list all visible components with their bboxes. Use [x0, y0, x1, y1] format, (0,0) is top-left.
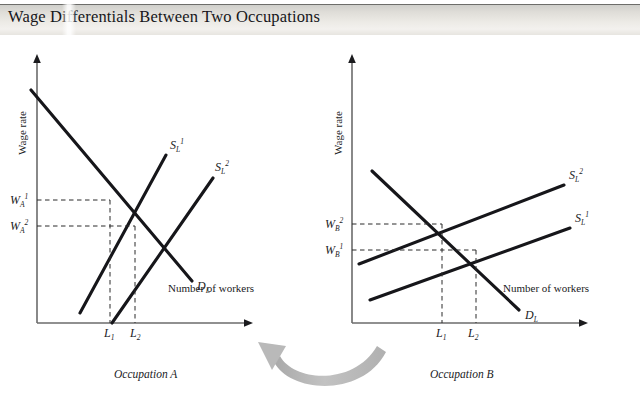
- price-label-w-a-1: WA1: [10, 193, 28, 209]
- price-label-w-b-1: WB1: [325, 243, 343, 259]
- curve-label-demand-b: DL: [525, 309, 538, 324]
- guide-lines-b: [352, 224, 476, 323]
- chart-panel-occupation-b: Wage rate Number of workers WB2 WB1 L1 L…: [320, 45, 640, 345]
- quantity-label-l-1-a: L1: [104, 327, 114, 342]
- curve-supply-2-a: [112, 178, 213, 323]
- curve-label-supply-2-b: SL2: [569, 168, 583, 184]
- price-label-w-b-2: WB2: [325, 217, 343, 233]
- x-axis-label-b: Number of workers: [503, 283, 589, 294]
- quantity-label-l-1-b: L1: [436, 327, 446, 342]
- price-label-w-a-2: WA2: [10, 219, 28, 235]
- curve-demand-b: [372, 171, 519, 310]
- figure-title: Wage Differentials Between Two Occupatio…: [8, 7, 320, 27]
- chart-panel-occupation-a: Wage rate Number of workers WA1 WA2 L1 L…: [0, 45, 320, 345]
- x-axis-label-a: Number of workers: [168, 283, 254, 294]
- quantity-label-l-2-b: L2: [468, 327, 478, 342]
- quantity-label-l-2-a: L2: [130, 327, 140, 342]
- figure-wage-differentials: Wage Differentials Between Two Occupatio…: [0, 0, 640, 405]
- caption-occupation-a: Occupation A: [114, 368, 177, 380]
- curve-label-supply-2-a: SL2: [215, 160, 229, 176]
- curve-label-supply-1-a: SL1: [170, 138, 184, 154]
- chart-svg-occupation-b: [320, 45, 640, 345]
- curve-supply-2-b: [359, 185, 564, 264]
- chart-svg-occupation-a: [0, 45, 320, 345]
- curve-label-supply-1-b: SL1: [575, 211, 589, 227]
- y-axis-label-a: Wage rate: [16, 111, 28, 155]
- y-axis-label-b: Wage rate: [332, 111, 344, 155]
- caption-occupation-b: Occupation B: [430, 368, 494, 380]
- workers-move-arrow: [250, 330, 410, 390]
- curve-label-demand-a: DL: [197, 280, 210, 295]
